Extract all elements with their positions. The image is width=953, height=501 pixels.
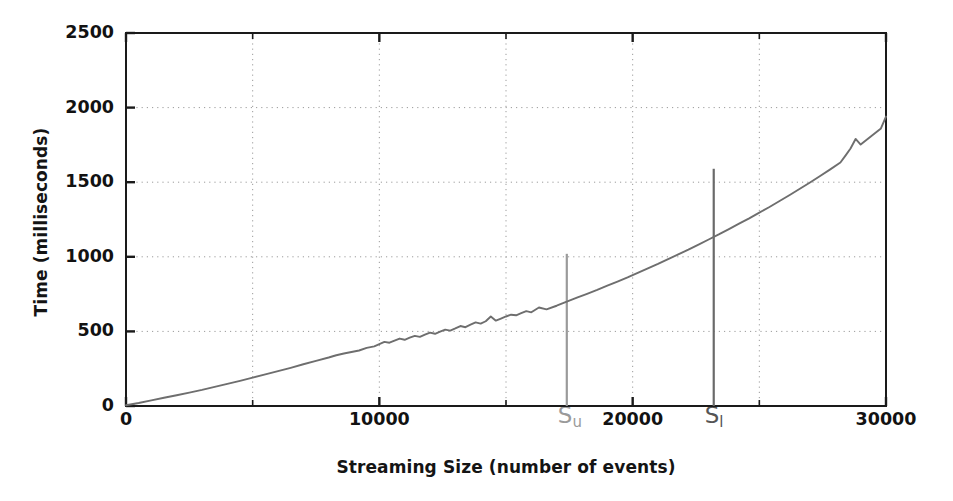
axis-frame bbox=[126, 33, 886, 406]
grid-lines bbox=[126, 33, 886, 406]
plot-canvas bbox=[0, 0, 953, 501]
chart-figure: Time (milliseconds) Streaming Size (numb… bbox=[0, 0, 953, 501]
data-series-line bbox=[126, 117, 886, 406]
tick-marks bbox=[126, 33, 886, 406]
plot-frame bbox=[126, 33, 886, 406]
series-path bbox=[126, 117, 886, 406]
annotation-marker-lines bbox=[567, 169, 714, 406]
